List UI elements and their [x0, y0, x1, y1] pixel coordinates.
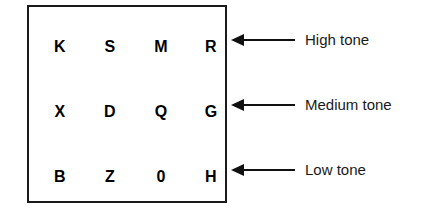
grid-row-medium-tone: X D Q G: [29, 101, 225, 123]
tone-grid-diagram: K S M R X D Q G B Z 0 H High tone: [0, 0, 427, 212]
grid-cell: K: [47, 36, 73, 58]
grid-cell: Q: [148, 101, 174, 123]
annotation-label: Medium tone: [305, 94, 392, 116]
character-grid-box: K S M R X D Q G B Z 0 H: [27, 5, 227, 203]
left-arrow-icon: [231, 99, 295, 111]
grid-cell: S: [97, 36, 123, 58]
annotation-medium-tone: Medium tone: [231, 94, 392, 116]
annotation-low-tone: Low tone: [231, 159, 366, 181]
grid-cell: R: [198, 36, 224, 58]
left-arrow-icon: [231, 164, 295, 176]
grid-cell: H: [198, 166, 224, 188]
annotation-label: Low tone: [305, 159, 366, 181]
grid-cell: G: [198, 101, 224, 123]
left-arrow-icon: [231, 34, 295, 46]
annotation-high-tone: High tone: [231, 29, 369, 51]
grid-row-low-tone: B Z 0 H: [29, 166, 225, 188]
annotation-label: High tone: [305, 29, 369, 51]
grid-cell: B: [47, 166, 73, 188]
grid-cell: D: [97, 101, 123, 123]
grid-cell: M: [148, 36, 174, 58]
grid-cell: Z: [97, 166, 123, 188]
grid-cell: 0: [148, 166, 174, 188]
grid-row-high-tone: K S M R: [29, 36, 225, 58]
grid-cell: X: [47, 101, 73, 123]
